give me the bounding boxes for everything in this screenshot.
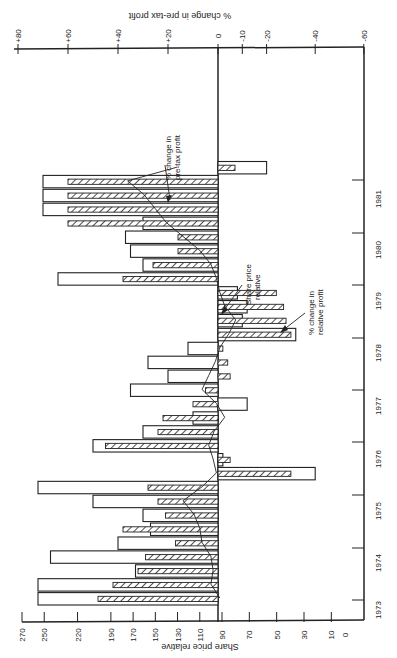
svg-text:relative profit: relative profit (316, 288, 325, 335)
relative-profit-bar (138, 569, 218, 574)
relative-profit-bar (176, 541, 219, 546)
relative-profit-bar (123, 276, 218, 281)
relative-profit-bar (68, 179, 218, 184)
relative-profit-bar (68, 221, 218, 226)
bottom-tick-label: 70 (245, 630, 254, 639)
bottom-axis: 27025022019017015013011090705030100 Shar… (18, 612, 364, 652)
top-tick-label: -20 (263, 30, 272, 42)
relative-profit-bar (218, 165, 235, 170)
pre-tax-profit-bar (148, 356, 218, 368)
year-label: 1980 (374, 241, 383, 259)
relative-profit-bar (206, 388, 219, 393)
relative-profit-bar (166, 513, 219, 518)
top-tick-label: +60 (64, 29, 73, 43)
top-tick-label: +40 (114, 29, 123, 43)
pre-tax-profit-bar (218, 398, 247, 410)
bottom-tick-label: 170 (129, 628, 138, 642)
year-label: 1979 (374, 292, 383, 310)
relative-profit-bar (218, 471, 291, 476)
relative-profit-bar (218, 360, 228, 365)
bottom-tick-label: 130 (174, 628, 183, 642)
bottom-tick-label: 0 (341, 632, 350, 637)
year-label: 1978 (374, 344, 383, 362)
top-tick-label: -60 (360, 30, 369, 42)
svg-text:pre-tax profit: pre-tax profit (173, 134, 182, 180)
relative-profit-bar (218, 457, 230, 462)
year-label: 1981 (374, 190, 383, 208)
bottom-tick-label: 30 (300, 630, 309, 639)
svg-text:% change in: % change in (307, 291, 316, 335)
relative-profit-bar (113, 582, 218, 587)
year-label: 1976 (374, 450, 383, 468)
top-tick-label: 0 (214, 33, 223, 38)
svg-text:relative: relative (253, 274, 262, 300)
year-label: 1977 (374, 397, 383, 415)
bottom-tick-label: 10 (327, 630, 336, 639)
relative-profit-bar (158, 429, 218, 434)
time-axis: 197319741975197619771978197919801981 (352, 47, 383, 620)
bottom-tick-label: 190 (107, 628, 116, 642)
top-tick-label: -40 (311, 30, 320, 42)
bottom-tick-label: 110 (196, 628, 205, 641)
pre-tax-profit-bar (131, 384, 219, 396)
pre-tax-profit-bar (188, 342, 218, 354)
relative-profit-bar (153, 263, 218, 268)
relative-profit-bar (193, 402, 218, 407)
relative-profit-bar (68, 207, 218, 212)
bottom-tick-label: 270 (18, 628, 27, 642)
top-axis: +80+60+40+200-10-20-40-60 % change in pr… (14, 11, 369, 54)
year-label: 1974 (374, 554, 383, 572)
relative-profit-bar (218, 318, 286, 323)
relative-profit-bar (148, 485, 218, 490)
top-tick-label: +20 (164, 29, 173, 43)
bottom-tick-label: 50 (273, 630, 282, 639)
year-label: 1975 (374, 502, 383, 520)
bottom-tick-label: 220 (74, 628, 83, 642)
top-tick-label: +80 (14, 29, 23, 43)
svg-text:Share price: Share price (244, 264, 253, 305)
relative-profit-bar (163, 416, 218, 421)
bottom-tick-label: 150 (151, 628, 160, 642)
year-label: 1973 (374, 601, 383, 619)
relative-profit-bar (146, 555, 219, 560)
relative-profit-bar (218, 374, 230, 379)
bars (38, 162, 315, 606)
top-tick-label: -10 (238, 30, 247, 42)
annotation-relative-profit: % change in relative profit (280, 288, 325, 335)
relative-profit-bar (123, 527, 218, 532)
bottom-tick-label: 250 (40, 628, 49, 642)
relative-profit-bar (106, 443, 219, 448)
relative-profit-bar (158, 499, 218, 504)
top-axis-label: % change in pre-tax profit (128, 11, 231, 21)
rotated-bar-chart: +80+60+40+200-10-20-40-60 % change in pr… (0, 0, 397, 658)
svg-text:% change in: % change in (164, 136, 173, 180)
relative-profit-bar (98, 596, 218, 601)
bottom-axis-label: Share price relative (161, 642, 239, 652)
bottom-tick-label: 90 (218, 630, 227, 639)
